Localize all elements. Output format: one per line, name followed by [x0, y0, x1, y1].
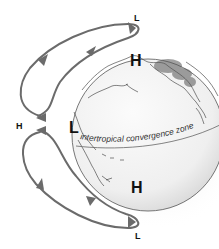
low-pressure-bottom-label: L	[135, 231, 141, 241]
atmospheric-circulation-diagram: intertropical convergence zone L H H L H…	[0, 0, 219, 249]
low-pressure-globe-label: L	[69, 119, 79, 136]
high-pressure-left-label: H	[16, 121, 23, 131]
arrow-icon	[86, 46, 96, 56]
high-pressure-north-label: H	[130, 52, 142, 69]
high-pressure-south-label: H	[131, 179, 143, 196]
arrow-icon	[86, 196, 96, 206]
low-pressure-top-label: L	[134, 13, 140, 23]
globe: intertropical convergence zone	[72, 56, 219, 211]
